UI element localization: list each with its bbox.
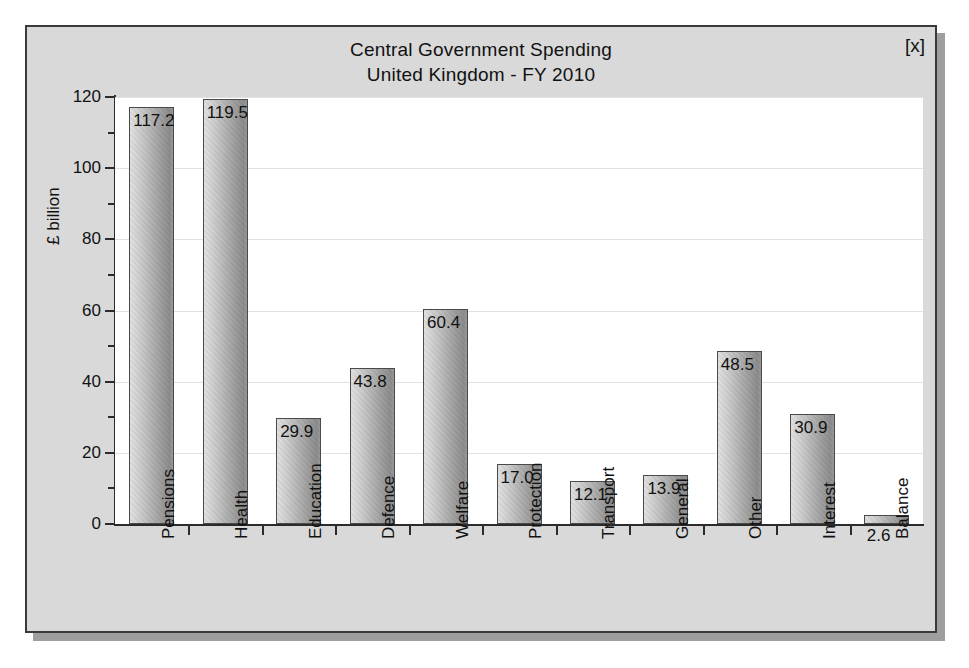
y-tick-major [105, 167, 115, 169]
category-label: Education [306, 463, 326, 539]
chart-title-block: Central Government Spending United Kingd… [27, 37, 935, 87]
bar-value-label: 119.5 [207, 103, 248, 122]
category-label: General [673, 479, 693, 539]
x-tick [629, 526, 631, 535]
x-tick [188, 526, 190, 535]
y-tick-minor [108, 132, 115, 134]
category-label: Transport [599, 467, 619, 539]
x-tick [776, 526, 778, 535]
y-tick-minor [108, 345, 115, 347]
y-tick-label: 60 [27, 301, 101, 321]
bar-value-label: 2.6 [867, 526, 891, 545]
x-tick [262, 526, 264, 535]
category-label: Health [232, 490, 252, 539]
close-icon[interactable]: [x] [905, 35, 925, 57]
y-tick-label: 80 [27, 229, 101, 249]
y-tick-major [105, 452, 115, 454]
y-tick-major [105, 310, 115, 312]
bar-value-label: 117.2 [133, 111, 174, 130]
screen: Central Government Spending United Kingd… [0, 0, 969, 668]
plot-area: 117.2119.529.943.860.417.012.113.948.530… [115, 97, 923, 524]
bar-value-label: 30.9 [794, 418, 827, 437]
category-label: Interest [820, 482, 840, 539]
bar-value-label: 29.9 [280, 422, 313, 441]
category-label: Welfare [453, 481, 473, 539]
category-label: Defence [379, 476, 399, 539]
chart-subtitle: United Kingdom - FY 2010 [27, 62, 935, 87]
y-tick-minor [108, 203, 115, 205]
y-tick-label: 100 [27, 158, 101, 178]
y-tick-minor [108, 487, 115, 489]
y-tick-major [105, 96, 115, 98]
x-tick [703, 526, 705, 535]
category-label: Other [746, 496, 766, 539]
x-tick [335, 526, 337, 535]
x-tick [482, 526, 484, 535]
bar-value-label: 48.5 [721, 355, 754, 374]
bar[interactable]: 119.5 [203, 99, 248, 524]
bar-value-label: 43.8 [354, 372, 387, 391]
x-tick [409, 526, 411, 535]
category-label: Balance [893, 478, 913, 539]
category-label: Pensions [159, 469, 179, 539]
y-tick-label: 0 [27, 514, 101, 534]
y-tick-minor [108, 416, 115, 418]
chart-panel: Central Government Spending United Kingd… [25, 25, 937, 633]
chart-title: Central Government Spending [27, 37, 935, 62]
x-tick [556, 526, 558, 535]
y-tick-major [105, 238, 115, 240]
category-label: Protection [526, 462, 546, 539]
y-tick-label: 20 [27, 443, 101, 463]
y-tick-minor [108, 274, 115, 276]
y-tick-major [105, 381, 115, 383]
y-tick-major [105, 523, 115, 525]
bar-value-label: 60.4 [427, 313, 460, 332]
bar[interactable]: 117.2 [129, 107, 174, 524]
y-tick-label: 120 [27, 87, 101, 107]
y-tick-label: 40 [27, 372, 101, 392]
x-tick [850, 526, 852, 535]
